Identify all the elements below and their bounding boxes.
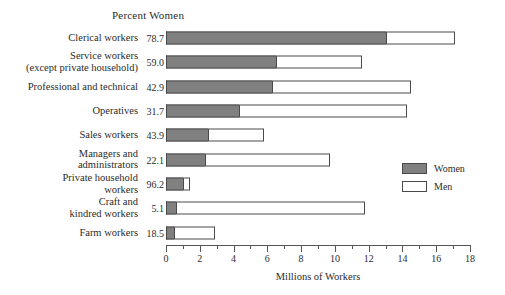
x-tick-minor: [352, 245, 353, 249]
stacked-bar: [166, 129, 264, 142]
x-tick-minor: [419, 245, 420, 249]
percent-women-value: 59.0: [140, 57, 164, 68]
x-tick-minor: [318, 245, 319, 249]
x-tick-label: 4: [231, 253, 236, 264]
x-axis-title: Millions of Workers: [166, 271, 470, 282]
percent-women-value: 22.1: [140, 154, 164, 165]
bar-segment-men: [386, 32, 455, 45]
category-label: Operatives: [0, 105, 138, 117]
x-tick-minor: [386, 245, 387, 249]
stacked-bar: [166, 80, 411, 93]
x-tick-label: 8: [299, 253, 304, 264]
x-axis: 024681012141618: [166, 245, 470, 257]
percent-women-value: 31.7: [140, 106, 164, 117]
bar-segment-men: [239, 105, 408, 118]
x-tick-major: [402, 245, 403, 252]
plot-area: [166, 196, 470, 220]
legend-item: Men: [402, 181, 465, 192]
bar-segment-women: [166, 153, 205, 166]
x-tick-major: [301, 245, 302, 252]
stacked-bar: [166, 56, 362, 69]
plot-area: [166, 26, 470, 50]
chart-row: Sales workers43.9: [0, 123, 505, 147]
x-tick-label: 18: [465, 253, 475, 264]
bar-segment-men: [276, 56, 362, 69]
category-label: Professional and technical: [0, 81, 138, 93]
x-tick-minor: [250, 245, 251, 249]
x-tick-major: [166, 245, 167, 252]
bar-segment-women: [166, 56, 276, 69]
stacked-bar: [166, 153, 330, 166]
x-tick-minor: [183, 245, 184, 249]
category-label: Sales workers: [0, 130, 138, 142]
bar-segment-women: [166, 226, 174, 239]
plot-area: [166, 123, 470, 147]
bar-segment-men: [183, 177, 190, 190]
category-label: Managers and administrators: [0, 148, 138, 171]
chart-legend: WomenMen: [402, 163, 465, 199]
bar-segment-men: [272, 80, 410, 93]
percent-women-value: 42.9: [140, 81, 164, 92]
legend-swatch-men: [402, 181, 427, 192]
x-tick-major: [234, 245, 235, 252]
percent-women-value: 43.9: [140, 130, 164, 141]
bar-segment-men: [176, 202, 365, 215]
stacked-bar: [166, 226, 215, 239]
bar-segment-women: [166, 32, 386, 45]
legend-label: Women: [434, 163, 465, 174]
bar-segment-men: [205, 153, 330, 166]
chart-rows: Clerical workers78.7Service workers (exc…: [0, 26, 505, 245]
stacked-bar: [166, 32, 455, 45]
chart-row: Service workers (except private househol…: [0, 50, 505, 74]
x-tick-major: [200, 245, 201, 252]
x-tick-minor: [217, 245, 218, 249]
x-tick-label: 14: [397, 253, 407, 264]
plot-area: [166, 75, 470, 99]
percent-women-value: 18.5: [140, 227, 164, 238]
percent-women-value: 78.7: [140, 33, 164, 44]
category-label: Farm workers: [0, 227, 138, 239]
x-tick-minor: [284, 245, 285, 249]
category-label: Private household workers: [0, 172, 138, 195]
legend-label: Men: [434, 181, 452, 192]
chart-row: Clerical workers78.7: [0, 26, 505, 50]
plot-area: [166, 50, 470, 74]
stacked-bar: [166, 202, 365, 215]
category-label: Service workers (except private househol…: [0, 51, 138, 74]
chart-row: Craft and kindred workers5.1: [0, 196, 505, 220]
bar-segment-women: [166, 202, 176, 215]
legend-swatch-women: [402, 163, 427, 174]
bar-segment-women: [166, 129, 208, 142]
bar-segment-men: [208, 129, 264, 142]
chart-row: Operatives31.7: [0, 99, 505, 123]
chart-row: Farm workers18.5: [0, 220, 505, 244]
percent-women-value: 96.2: [140, 178, 164, 189]
stacked-bar: [166, 177, 190, 190]
x-tick-major: [436, 245, 437, 252]
category-label: Craft and kindred workers: [0, 197, 138, 220]
legend-item: Women: [402, 163, 465, 174]
percent-women-column-header: Percent Women: [112, 9, 184, 21]
x-tick-major: [369, 245, 370, 252]
bar-segment-women: [166, 177, 183, 190]
x-tick-label: 12: [364, 253, 374, 264]
plot-area: [166, 220, 470, 244]
x-tick-label: 2: [197, 253, 202, 264]
plot-area: [166, 99, 470, 123]
x-tick-major: [470, 245, 471, 252]
bar-segment-women: [166, 105, 239, 118]
category-label: Clerical workers: [0, 32, 138, 44]
x-tick-minor: [453, 245, 454, 249]
x-tick-major: [335, 245, 336, 252]
x-tick-label: 16: [431, 253, 441, 264]
percent-women-value: 5.1: [140, 203, 164, 214]
stacked-bar: [166, 105, 407, 118]
x-tick-label: 10: [330, 253, 340, 264]
bar-segment-women: [166, 80, 272, 93]
chart-row: Professional and technical42.9: [0, 75, 505, 99]
bar-segment-men: [174, 226, 215, 239]
x-tick-major: [267, 245, 268, 252]
x-tick-label: 0: [164, 253, 169, 264]
x-tick-label: 6: [265, 253, 270, 264]
horizontal-stacked-bar-chart: Percent Women Clerical workers78.7Servic…: [0, 0, 505, 295]
